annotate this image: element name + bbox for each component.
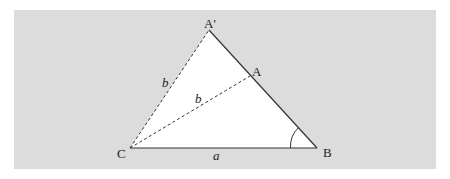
label-C: C	[117, 146, 126, 161]
triangle-diagram: A' A B C a b b	[0, 0, 450, 179]
triangle-fill	[130, 30, 317, 148]
label-A-prime: A'	[204, 16, 216, 31]
label-side-b-inner: b	[195, 91, 202, 106]
label-side-b-outer: b	[162, 75, 169, 90]
label-A: A	[252, 64, 262, 79]
label-B: B	[323, 145, 332, 160]
label-side-a: a	[213, 148, 220, 163]
